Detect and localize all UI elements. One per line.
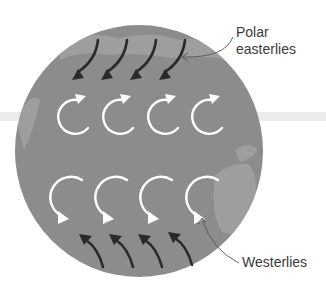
- diagram-canvas: Polar easterlies Westerlies: [0, 0, 326, 292]
- globe-icon: [15, 25, 263, 277]
- polar-label-line2: easterlies: [236, 41, 296, 58]
- polar-easterlies-label: Polar easterlies: [236, 24, 296, 58]
- westerlies-label: Westerlies: [242, 254, 307, 271]
- polar-label-line1: Polar: [236, 24, 296, 41]
